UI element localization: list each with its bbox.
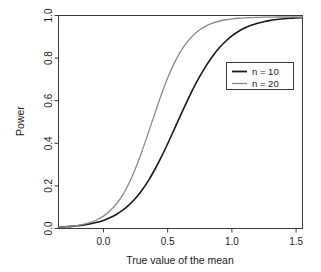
x-tick-label: 1.5 xyxy=(289,236,303,247)
y-tick-label: 0.2 xyxy=(43,179,54,193)
chart-canvas: 0.00.51.01.5 0.00.20.40.60.81.0 True val… xyxy=(0,0,321,272)
x-tick-label: 0.0 xyxy=(96,236,110,247)
y-tick-label: 0.0 xyxy=(43,221,54,235)
legend-label-1: n = 10 xyxy=(252,66,279,77)
x-tick-label: 0.5 xyxy=(161,236,175,247)
y-tick-label: 1.0 xyxy=(43,8,54,22)
y-tick-label: 0.4 xyxy=(43,136,54,150)
y-tick-label: 0.8 xyxy=(43,51,54,65)
legend: n = 10n = 20 xyxy=(227,63,294,90)
x-axis-title: True value of the mean xyxy=(126,254,234,266)
x-tick-label: 1.0 xyxy=(225,236,239,247)
legend-label-2: n = 20 xyxy=(252,78,279,89)
y-tick-label: 0.6 xyxy=(43,93,54,107)
y-axis-title: Power xyxy=(14,106,26,136)
power-curve-figure: 0.00.51.01.5 0.00.20.40.60.81.0 True val… xyxy=(0,0,321,272)
